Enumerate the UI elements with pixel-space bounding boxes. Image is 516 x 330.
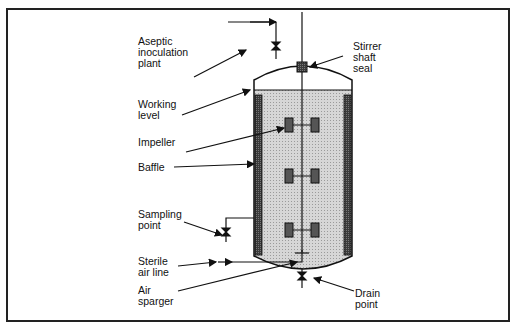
fermenter-diagram bbox=[0, 0, 516, 330]
liquid-volume bbox=[254, 90, 352, 269]
label-aseptic-inoculation: Aseptic inoculation plant bbox=[138, 36, 188, 69]
baffle-right bbox=[344, 95, 351, 255]
baffle-left bbox=[255, 95, 262, 255]
label-drain-point: Drain point bbox=[355, 288, 380, 310]
label-sterile-air-line: Sterile air line bbox=[138, 256, 169, 278]
label-stirrer-shaft-seal: Stirrer shaft seal bbox=[353, 41, 382, 74]
label-sampling-point: Sampling point bbox=[138, 209, 182, 231]
label-baffle: Baffle bbox=[138, 162, 165, 173]
label-working-level: Working level bbox=[138, 99, 176, 121]
label-air-sparger: Air sparger bbox=[138, 285, 174, 307]
inoculation-line bbox=[228, 22, 280, 59]
sampling-line bbox=[222, 218, 254, 242]
label-impeller: Impeller bbox=[138, 137, 175, 148]
shaft-seal bbox=[297, 62, 307, 72]
drain-valve bbox=[298, 268, 306, 288]
